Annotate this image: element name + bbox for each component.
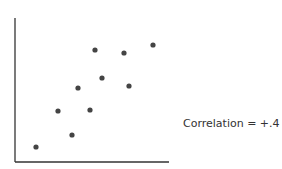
correlation-label: Correlation = +.4 xyxy=(183,117,280,130)
data-point xyxy=(87,107,92,112)
data-point xyxy=(69,132,74,137)
data-points xyxy=(33,42,155,149)
data-point xyxy=(121,50,126,55)
scatter-plot xyxy=(0,0,282,169)
data-point xyxy=(126,83,131,88)
data-point xyxy=(150,42,155,47)
data-point xyxy=(92,47,97,52)
data-point xyxy=(33,144,38,149)
data-point xyxy=(99,75,104,80)
data-point xyxy=(55,108,60,113)
data-point xyxy=(75,85,80,90)
